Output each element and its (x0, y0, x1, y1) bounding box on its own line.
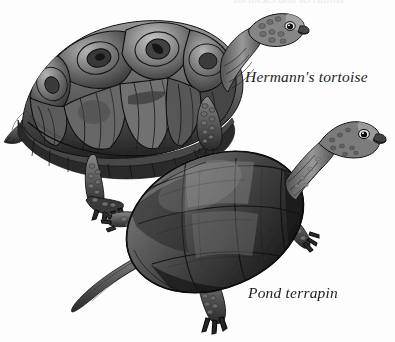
illustration-plate: Tortoises and terrapins (0, 0, 395, 342)
label-pond-terrapin: Pond terrapin (248, 285, 338, 301)
tortoise-head (249, 14, 309, 47)
label-hermanns-tortoise: Hermann's tortoise (245, 69, 368, 85)
